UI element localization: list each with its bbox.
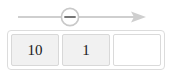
cell-1[interactable]: 1	[62, 34, 110, 66]
screenshot-root: 10 1	[0, 0, 180, 77]
arrow-graphic	[0, 0, 180, 30]
cell-1-value: 1	[82, 43, 90, 58]
cell-0[interactable]: 10	[11, 34, 59, 66]
value-cell-strip: 10 1	[7, 30, 165, 70]
arrow-slider-track[interactable]	[0, 0, 180, 30]
cell-0-value: 10	[28, 43, 43, 58]
cell-2[interactable]	[113, 34, 161, 66]
